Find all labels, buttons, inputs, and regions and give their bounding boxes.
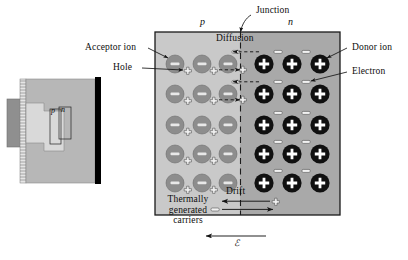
electron-symbol (302, 140, 310, 143)
junction-label: Junction (256, 5, 289, 16)
donor-ion (254, 54, 273, 73)
thermally-generated-carriers-label: Thermally generated carriers (158, 194, 218, 226)
electron-symbol (274, 140, 282, 143)
electron-symbol (274, 50, 282, 53)
electron-symbol (302, 50, 310, 53)
acceptor-ion (193, 55, 211, 73)
electric-field-symbol: ℰ (234, 238, 239, 249)
electron-symbol (302, 111, 310, 114)
acceptor-ion (166, 145, 184, 163)
electron-symbol (274, 111, 282, 114)
donor-ion (310, 144, 329, 163)
figure-canvas: p n Junction Diffusion Drift Acceptor io… (0, 0, 408, 260)
donor-ion (282, 144, 301, 163)
donor-ion-label: Donor ion (352, 42, 392, 53)
electron-symbol (274, 80, 282, 83)
acceptor-ion (193, 174, 211, 192)
acceptor-ion (193, 145, 211, 163)
electron-symbol (302, 169, 310, 172)
electron-symbol (302, 80, 310, 83)
acceptor-ion-label: Acceptor ion (85, 42, 136, 53)
inset-p-label: p (51, 106, 55, 117)
acceptor-ion (166, 116, 184, 134)
device-inset (7, 77, 101, 184)
acceptor-ion (219, 85, 237, 103)
acceptor-ion (193, 116, 211, 134)
donor-ion (282, 115, 301, 134)
donor-ion (282, 84, 301, 103)
donor-ion (310, 84, 329, 103)
n-region-label: n (288, 17, 293, 28)
diffusion-label: Diffusion (216, 33, 254, 44)
p-region-label: p (200, 17, 205, 28)
acceptor-ion (219, 55, 237, 73)
acceptor-ion (166, 85, 184, 103)
inset-right-contact (95, 77, 101, 184)
donor-ion (254, 144, 273, 163)
acceptor-ion (219, 116, 237, 134)
donor-ion (282, 173, 301, 192)
donor-ion (282, 54, 301, 73)
acceptor-ion (166, 174, 184, 192)
donor-ion (254, 173, 273, 192)
drift-label: Drift (226, 186, 245, 197)
donor-ion (310, 173, 329, 192)
acceptor-ion (219, 145, 237, 163)
donor-ion (310, 115, 329, 134)
acceptor-ion (193, 85, 211, 103)
inset-n-label: n (61, 105, 65, 116)
junction-leader (241, 15, 252, 32)
donor-ion (310, 54, 329, 73)
hole-label: Hole (113, 62, 132, 73)
donor-ion (254, 84, 273, 103)
donor-ion (254, 115, 273, 134)
electron-symbol (274, 169, 282, 172)
inset-hatch-strip (20, 79, 26, 183)
electron-label: Electron (352, 66, 385, 77)
